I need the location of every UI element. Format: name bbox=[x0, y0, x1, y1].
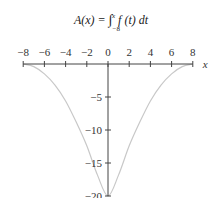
y-tick-label: −10 bbox=[85, 124, 103, 136]
x-tick-label: −4 bbox=[60, 46, 72, 58]
y-tick-label: −20 bbox=[85, 190, 103, 198]
axes bbox=[23, 61, 193, 196]
chart-title: A(x) = ∫−8x f (t) dt bbox=[73, 12, 149, 33]
x-tick-label: −2 bbox=[81, 46, 93, 58]
x-tick-label: −6 bbox=[39, 46, 51, 58]
x-axis-label: x bbox=[202, 58, 208, 70]
x-tick-label: 0 bbox=[105, 46, 111, 58]
x-tick-label: 6 bbox=[169, 46, 175, 58]
integral-function-plot: A(x) = ∫−8x f (t) dt −8−6−4−202468x−5−10… bbox=[0, 0, 222, 198]
x-tick-label: −8 bbox=[17, 46, 29, 58]
y-tick-label: −5 bbox=[90, 91, 102, 103]
x-tick-label: 8 bbox=[190, 46, 196, 58]
x-tick-label: 4 bbox=[148, 46, 154, 58]
x-tick-label: 2 bbox=[126, 46, 132, 58]
y-tick-label: −15 bbox=[85, 157, 103, 169]
